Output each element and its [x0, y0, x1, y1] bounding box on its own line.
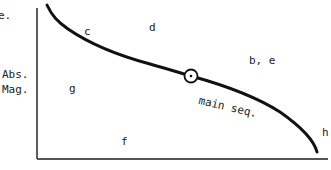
- region-label-c: c: [84, 26, 91, 37]
- region-label-g: g: [69, 83, 76, 94]
- sun-marker-icon: [185, 70, 198, 83]
- hr-diagram-plot: [0, 0, 331, 170]
- region-label-d: d: [149, 22, 156, 33]
- y-axis-label-mag: Mag.: [2, 84, 29, 95]
- region-label-b-e: b, e: [249, 55, 276, 66]
- region-label-h: h: [322, 127, 329, 138]
- y-axis-label-abs: Abs.: [2, 69, 29, 80]
- region-label-f: f: [121, 136, 128, 147]
- title-fragment: e.: [0, 10, 11, 21]
